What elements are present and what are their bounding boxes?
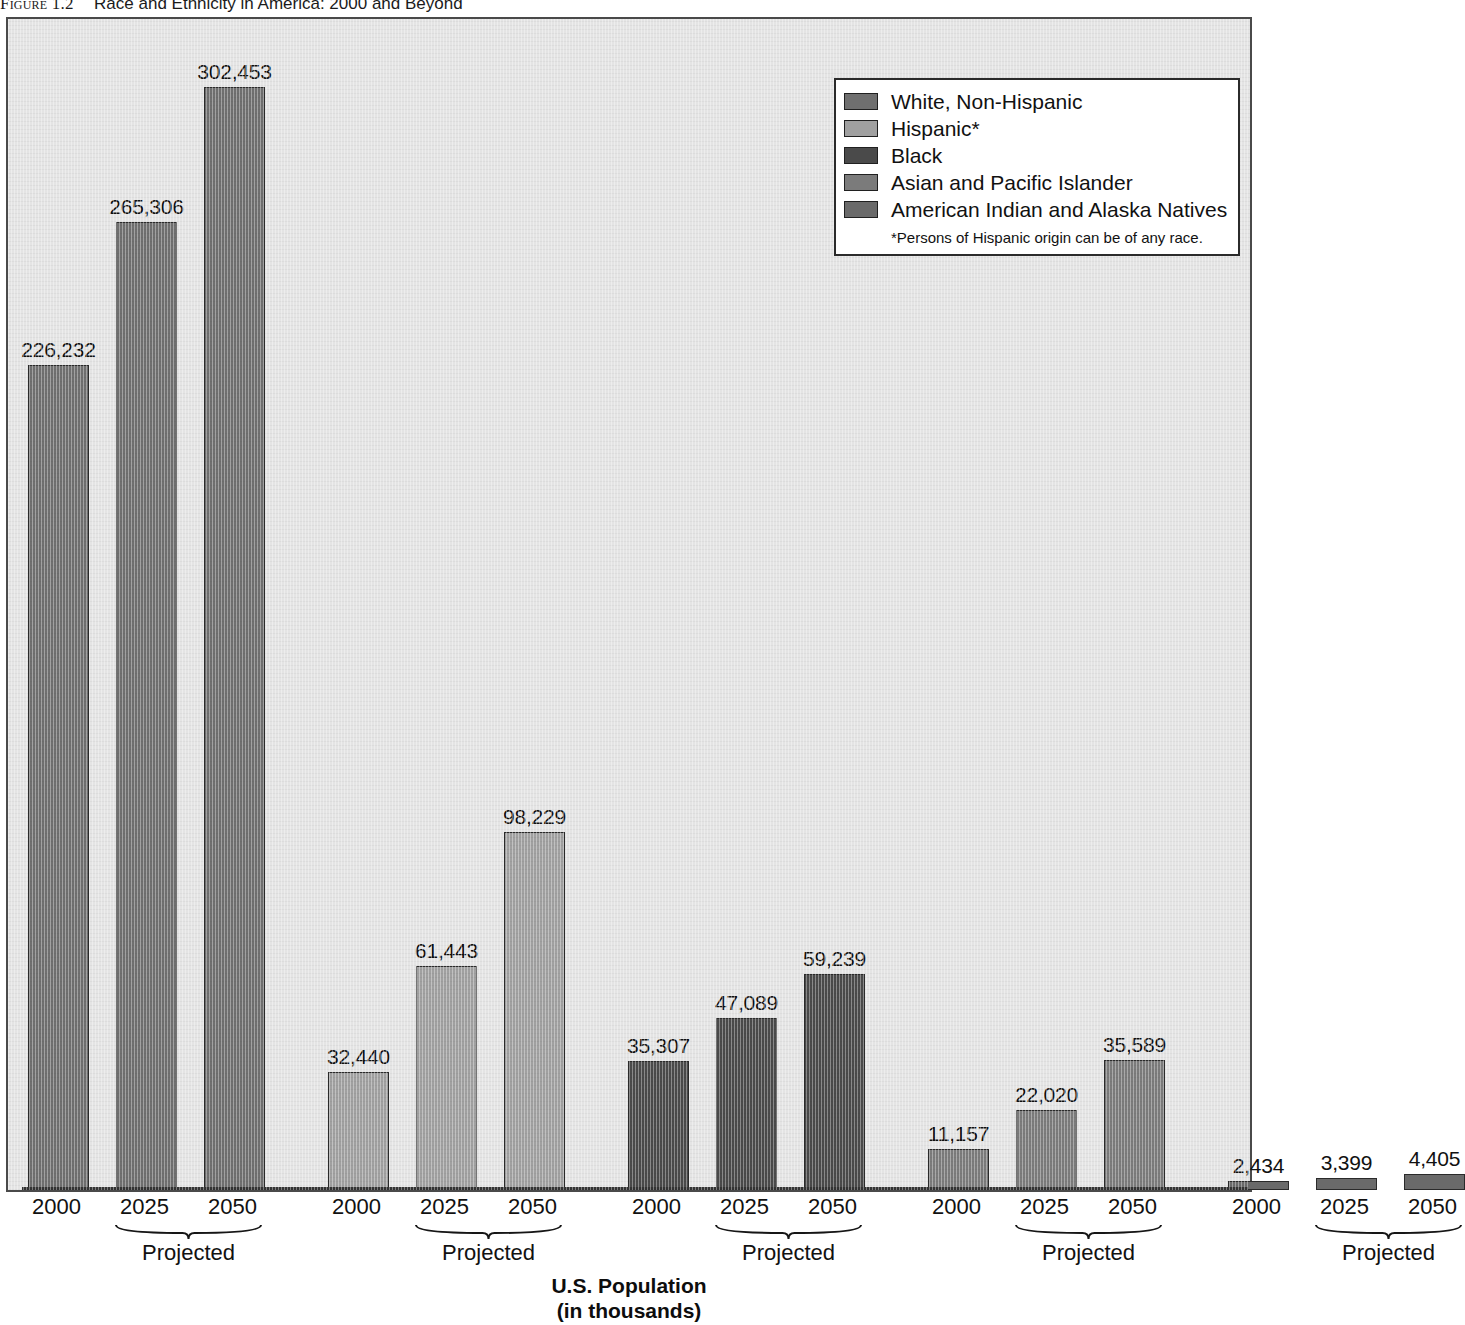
- bar-value-label: 32,440: [327, 1045, 390, 1069]
- projected-brace: [114, 1224, 263, 1240]
- axis-title-line1: U.S. Population: [0, 1274, 1258, 1299]
- bar-group-2-bar-1: 47,089: [716, 984, 777, 1190]
- chart-plot-area: 226,232265,306302,45332,44061,44398,2293…: [6, 17, 1252, 1192]
- bar: [328, 1072, 389, 1190]
- bar-value-label: 3,399: [1321, 1151, 1373, 1175]
- x-axis-labels: 200020252050Projected200020252050Project…: [6, 1192, 1252, 1274]
- figure-number: Figure 1.2: [0, 0, 74, 13]
- legend-swatch-black: [844, 147, 878, 164]
- x-tick-label: 2025: [1320, 1194, 1369, 1220]
- bar: [716, 1018, 777, 1190]
- bar-group-0-bar-0: 226,232: [28, 331, 89, 1190]
- x-tick-label: 2000: [932, 1194, 981, 1220]
- figure-title: Race and Ethnicity in America: 2000 and …: [94, 0, 463, 13]
- bar: [1016, 1110, 1077, 1190]
- x-tick-label: 2000: [1232, 1194, 1281, 1220]
- bar-value-label: 47,089: [715, 991, 778, 1015]
- x-axis-baseline: [22, 1187, 1248, 1190]
- bar: [28, 365, 89, 1190]
- bar-value-label: 265,306: [109, 195, 184, 219]
- bar: [416, 966, 477, 1190]
- projected-label: Projected: [1342, 1240, 1435, 1266]
- figure-caption: Figure 1.2 Race and Ethnicity in America…: [0, 0, 1258, 14]
- legend-swatch-hispanic: [844, 120, 878, 137]
- legend-label: American Indian and Alaska Natives: [891, 199, 1227, 220]
- legend-label: Black: [891, 145, 942, 166]
- x-tick-label: 2050: [808, 1194, 857, 1220]
- x-tick-label: 2025: [120, 1194, 169, 1220]
- projected-brace: [1014, 1224, 1163, 1240]
- legend-swatch-white-non-hispanic: [844, 93, 878, 110]
- bar: [1404, 1174, 1465, 1190]
- bar-value-label: 98,229: [503, 805, 566, 829]
- bar-group-0-bar-2: 302,453: [204, 53, 265, 1190]
- bar-value-label: 302,453: [197, 60, 272, 84]
- bar-value-label: 22,020: [1015, 1083, 1078, 1107]
- projected-label: Projected: [142, 1240, 235, 1266]
- legend-label: Hispanic*: [891, 118, 980, 139]
- bar: [628, 1061, 689, 1190]
- axis-title-line2: (in thousands): [0, 1299, 1258, 1324]
- x-tick-label: 2050: [208, 1194, 257, 1220]
- legend-item: Hispanic*: [844, 115, 1228, 142]
- projected-brace: [714, 1224, 863, 1240]
- bar: [1316, 1178, 1377, 1190]
- x-tick-label: 2025: [1020, 1194, 1069, 1220]
- legend-item: White, Non-Hispanic: [844, 88, 1228, 115]
- legend-label: White, Non-Hispanic: [891, 91, 1082, 112]
- bar-group-4-bar-2: 4,405: [1404, 1140, 1465, 1190]
- bar-group-0-bar-1: 265,306: [116, 188, 177, 1190]
- projected-label: Projected: [742, 1240, 835, 1266]
- x-tick-label: 2050: [1108, 1194, 1157, 1220]
- bar-group-4-bar-1: 3,399: [1316, 1144, 1377, 1190]
- bar-value-label: 35,589: [1103, 1033, 1166, 1057]
- x-tick-label: 2050: [1408, 1194, 1457, 1220]
- bar-group-1-bar-0: 32,440: [328, 1038, 389, 1190]
- bar: [1104, 1060, 1165, 1190]
- legend-item: Black: [844, 142, 1228, 169]
- bar-value-label: 226,232: [21, 338, 96, 362]
- bar-group-3-bar-0: 11,157: [928, 1115, 989, 1190]
- bar-value-label: 2,434: [1233, 1154, 1285, 1178]
- bar: [204, 87, 265, 1190]
- bar-group-2-bar-0: 35,307: [628, 1027, 689, 1190]
- legend-swatch-american-indian-alaska-natives: [844, 201, 878, 218]
- x-tick-label: 2050: [508, 1194, 557, 1220]
- bar-group-2-bar-2: 59,239: [804, 940, 865, 1190]
- bar-group-3-bar-1: 22,020: [1016, 1076, 1077, 1190]
- projected-label: Projected: [442, 1240, 535, 1266]
- projected-label: Projected: [1042, 1240, 1135, 1266]
- chart-legend: White, Non-Hispanic Hispanic* Black Asia…: [834, 78, 1240, 256]
- bar: [504, 832, 565, 1190]
- bar-group-3-bar-2: 35,589: [1104, 1026, 1165, 1190]
- bar-value-label: 59,239: [803, 947, 866, 971]
- bar: [804, 974, 865, 1190]
- bar-group-4-bar-0: 2,434: [1228, 1147, 1289, 1190]
- x-tick-label: 2000: [332, 1194, 381, 1220]
- bar: [116, 222, 177, 1190]
- x-tick-label: 2025: [420, 1194, 469, 1220]
- x-tick-label: 2000: [632, 1194, 681, 1220]
- legend-label: Asian and Pacific Islander: [891, 172, 1133, 193]
- bar-value-label: 35,307: [627, 1034, 690, 1058]
- bar-group-1-bar-2: 98,229: [504, 798, 565, 1190]
- legend-item: Asian and Pacific Islander: [844, 169, 1228, 196]
- bar-value-label: 61,443: [415, 939, 478, 963]
- bar-value-label: 4,405: [1409, 1147, 1461, 1171]
- axis-title: U.S. Population (in thousands): [0, 1274, 1258, 1324]
- x-tick-label: 2000: [32, 1194, 81, 1220]
- bar-value-label: 11,157: [928, 1122, 989, 1146]
- bar: [928, 1149, 989, 1190]
- bar-group-1-bar-1: 61,443: [416, 932, 477, 1190]
- x-tick-label: 2025: [720, 1194, 769, 1220]
- legend-item: American Indian and Alaska Natives: [844, 196, 1228, 223]
- projected-brace: [414, 1224, 563, 1240]
- legend-footnote: *Persons of Hispanic origin can be of an…: [891, 229, 1228, 246]
- legend-swatch-asian-pacific-islander: [844, 174, 878, 191]
- projected-brace: [1314, 1224, 1463, 1240]
